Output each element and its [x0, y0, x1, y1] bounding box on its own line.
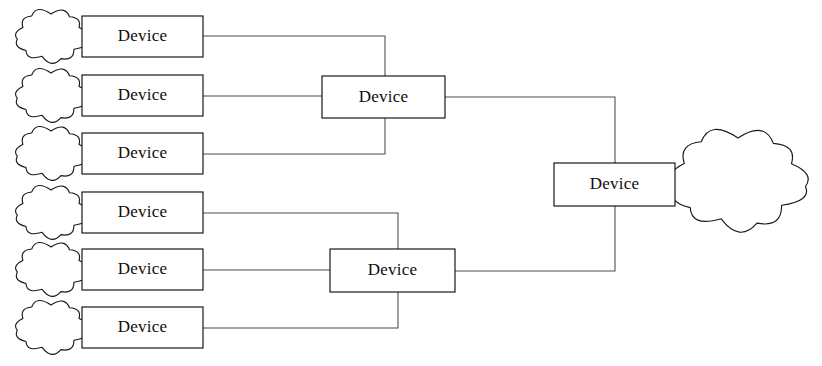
- core-device-node[interactable]: Device: [554, 163, 675, 206]
- device-label: Device: [368, 260, 417, 279]
- diagram-canvas: DeviceDeviceDeviceDeviceDeviceDeviceDevi…: [0, 0, 822, 366]
- network-cloud-icon: [16, 186, 88, 240]
- connection-line: [203, 118, 385, 154]
- device-label: Device: [359, 87, 408, 106]
- network-cloud-icon: [16, 127, 88, 181]
- device-label: Device: [118, 202, 167, 221]
- device-label: Device: [118, 259, 167, 278]
- edge-device-node[interactable]: Device: [82, 133, 203, 174]
- edge-device-node[interactable]: Device: [82, 75, 203, 116]
- connection-line: [203, 213, 398, 249]
- device-label: Device: [118, 85, 167, 104]
- device-label: Device: [590, 174, 639, 193]
- connection-line: [203, 36, 385, 76]
- edge-device-node[interactable]: Device: [82, 307, 203, 348]
- connection-line: [455, 206, 615, 271]
- cloud-layer: [16, 10, 809, 355]
- core-network-cloud-icon: [670, 129, 808, 232]
- node-layer: DeviceDeviceDeviceDeviceDeviceDeviceDevi…: [82, 16, 675, 348]
- edge-device-node[interactable]: Device: [82, 249, 203, 290]
- device-label: Device: [118, 143, 167, 162]
- aggregator-device-node[interactable]: Device: [322, 76, 445, 118]
- network-cloud-icon: [16, 10, 88, 64]
- edge-device-node[interactable]: Device: [82, 192, 203, 233]
- network-topology-diagram: DeviceDeviceDeviceDeviceDeviceDeviceDevi…: [0, 0, 822, 366]
- device-label: Device: [118, 317, 167, 336]
- connection-line: [445, 97, 615, 163]
- device-label: Device: [118, 26, 167, 45]
- edge-device-node[interactable]: Device: [82, 16, 203, 57]
- network-cloud-icon: [16, 301, 88, 355]
- network-cloud-icon: [16, 243, 88, 297]
- aggregator-device-node[interactable]: Device: [330, 249, 455, 292]
- connection-line: [203, 292, 398, 328]
- network-cloud-icon: [16, 69, 88, 123]
